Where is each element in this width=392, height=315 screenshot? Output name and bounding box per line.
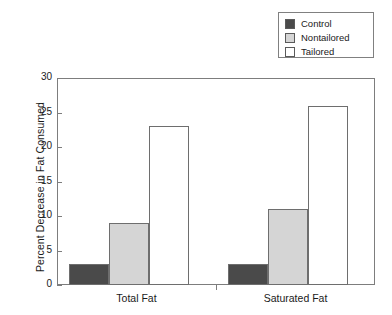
y-tick-label: 0 <box>28 278 52 289</box>
bar-nontailored-saturated-fat <box>268 209 308 285</box>
y-tick-label: 10 <box>28 209 52 220</box>
legend-swatch-nontailored <box>285 33 295 43</box>
y-tick-label: 25 <box>28 106 52 117</box>
y-tick-mark <box>57 285 62 286</box>
y-tick-label: 15 <box>28 175 52 186</box>
y-tick-label: 20 <box>28 140 52 151</box>
y-tick-mark <box>57 78 62 79</box>
y-tick-label: 30 <box>28 71 52 82</box>
bar-tailored-saturated-fat <box>308 106 348 285</box>
bar-control-saturated-fat <box>228 264 268 285</box>
legend-swatch-control <box>285 19 295 29</box>
x-axis-label-saturated-fat: Saturated Fat <box>216 292 375 304</box>
x-axis-label-total-fat: Total Fat <box>57 292 216 304</box>
y-tick-label: 5 <box>28 244 52 255</box>
y-axis-title: Percent Decrease in Fat Consumed <box>34 57 46 315</box>
legend-swatch-tailored <box>285 47 295 57</box>
y-tick-mark <box>57 147 62 148</box>
legend-label-control: Control <box>301 18 332 29</box>
legend-item-tailored: Tailored <box>285 45 368 58</box>
bar-tailored-total-fat <box>149 126 189 285</box>
legend-label-tailored: Tailored <box>301 46 334 57</box>
bar-control-total-fat <box>69 264 109 285</box>
y-tick-mark <box>57 113 62 114</box>
legend-item-nontailored: Nontailored <box>285 31 368 44</box>
y-tick-mark <box>57 251 62 252</box>
chart-legend: Control Nontailored Tailored <box>278 12 374 58</box>
bar-nontailored-total-fat <box>109 223 149 285</box>
legend-label-nontailored: Nontailored <box>301 32 350 43</box>
y-tick-mark <box>57 182 62 183</box>
y-tick-mark <box>57 216 62 217</box>
legend-item-control: Control <box>285 17 368 30</box>
x-axis-center-tick <box>216 285 217 290</box>
